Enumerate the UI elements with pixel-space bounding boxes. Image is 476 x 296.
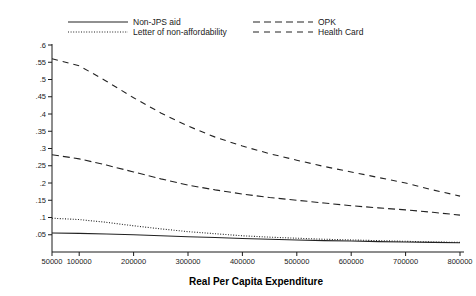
x-axis-tick-label: 800000: [447, 257, 472, 266]
x-axis-tick-label: 700000: [393, 257, 418, 266]
series-line-2: [52, 155, 460, 215]
chart-legend: Non-JPS aidLetter of non-affordabilityOP…: [68, 17, 364, 37]
y-axis-tick-label: .1: [40, 213, 46, 222]
line-chart: Non-JPS aidLetter of non-affordabilityOP…: [0, 0, 476, 296]
legend-label-1: Letter of non-affordability: [133, 27, 228, 37]
y-axis-tick-label: .25: [36, 161, 46, 170]
y-axis-tick-label: .55: [36, 58, 46, 67]
y-axis-tick-label: .2: [40, 179, 46, 188]
y-axis-tick-label: .5: [40, 75, 46, 84]
y-axis-tick-label: .35: [36, 127, 46, 136]
x-axis-tick-label: 300000: [175, 257, 200, 266]
series-line-0: [52, 233, 460, 243]
legend-label-0: Non-JPS aid: [133, 17, 181, 27]
y-axis-tick-label: .6: [40, 41, 46, 50]
x-axis-tick-label: 500000: [284, 257, 309, 266]
y-axis-tick-label: .45: [36, 92, 46, 101]
x-axis-tick-label: 600000: [339, 257, 364, 266]
chart-axes: .05.1.15.2.25.3.35.4.45.5.55.65000010000…: [36, 41, 473, 266]
y-axis-tick-label: .05: [36, 230, 46, 239]
x-axis-tick-label: 50000: [42, 257, 63, 266]
y-axis-tick-label: .3: [40, 144, 46, 153]
x-axis-title: Real Per Capita Expenditure: [189, 276, 323, 287]
legend-label-3: Health Card: [318, 27, 364, 37]
x-axis-tick-label: 400000: [230, 257, 255, 266]
chart-series: [52, 59, 460, 243]
x-axis-tick-label: 100000: [67, 257, 92, 266]
y-axis-tick-label: .4: [40, 110, 46, 119]
legend-label-2: OPK: [318, 17, 336, 27]
y-axis-tick-label: .15: [36, 196, 46, 205]
series-line-3: [52, 59, 460, 196]
x-axis-tick-label: 200000: [121, 257, 146, 266]
chart-container: Non-JPS aidLetter of non-affordabilityOP…: [0, 0, 476, 296]
